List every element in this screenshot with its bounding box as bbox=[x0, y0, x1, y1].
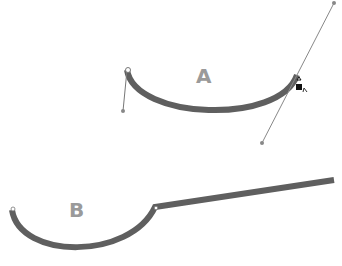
drawing-canvas[interactable] bbox=[0, 0, 342, 266]
handle-point-top[interactable] bbox=[332, 1, 336, 5]
anchor-point-b-start[interactable] bbox=[11, 207, 15, 211]
curve-a[interactable] bbox=[127, 70, 297, 110]
anchor-point-left[interactable] bbox=[126, 68, 131, 73]
handle-point-left[interactable] bbox=[121, 109, 125, 113]
handle-point-bottom[interactable] bbox=[260, 141, 264, 145]
curve-b[interactable] bbox=[12, 180, 334, 247]
handle-line-left bbox=[123, 70, 127, 111]
label-b: B bbox=[69, 198, 84, 222]
anchor-point-b-corner[interactable] bbox=[154, 206, 158, 210]
pen-cursor-icon bbox=[296, 77, 307, 92]
handle-line-right bbox=[262, 3, 334, 143]
label-a: A bbox=[196, 64, 211, 88]
